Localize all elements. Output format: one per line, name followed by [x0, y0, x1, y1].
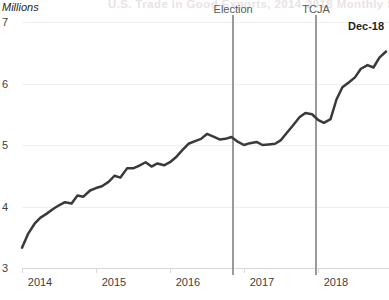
gridline-4	[22, 207, 389, 208]
annotation-label-election: Election	[214, 3, 253, 15]
x-tick-label-2014: 2014	[28, 276, 52, 288]
x-tick-mark-2016	[170, 268, 171, 273]
y-axis-unit-label: Millions	[2, 1, 39, 13]
x-tick-label-2015: 2015	[102, 276, 126, 288]
series-layer	[0, 0, 389, 300]
x-tick-label-2018: 2018	[324, 276, 348, 288]
x-tick-mark-2018	[318, 268, 319, 273]
gridline-7	[22, 22, 389, 23]
annotation-label-tcja: TCJA	[302, 3, 330, 15]
x-tick-mark-2014	[22, 268, 23, 273]
line-chart: U.S. Trade in Good Exports, 2014-2018 Mo…	[0, 0, 389, 300]
point-label-dec-18: Dec-18	[348, 20, 384, 32]
y-tick-label-7: 7	[2, 16, 8, 28]
gridline-5	[22, 145, 389, 146]
annotation-line-tcja	[315, 15, 317, 275]
annotation-line-election	[232, 15, 234, 275]
x-tick-mark-2015	[96, 268, 97, 273]
data-line-millions	[22, 52, 386, 248]
y-tick-label-6: 6	[2, 78, 8, 90]
x-tick-label-2017: 2017	[250, 276, 274, 288]
x-axis-baseline	[22, 268, 389, 269]
y-tick-label-4: 4	[2, 201, 8, 213]
y-tick-label-3: 3	[2, 262, 8, 274]
x-tick-mark-2017	[244, 268, 245, 273]
gridline-6	[22, 84, 389, 85]
y-tick-label-5: 5	[2, 139, 8, 151]
x-tick-label-2016: 2016	[176, 276, 200, 288]
